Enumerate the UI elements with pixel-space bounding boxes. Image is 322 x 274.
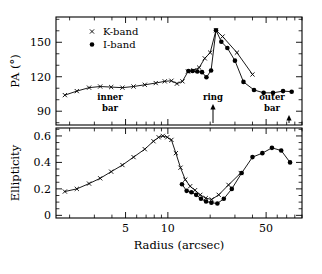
data-point-cross <box>131 155 135 159</box>
data-point-cross <box>217 193 221 197</box>
data-point-dot <box>204 199 209 204</box>
data-point-dot <box>194 193 199 198</box>
ellipticity-panel-frame <box>56 128 302 218</box>
pa-axis-title: PA (°) <box>8 54 22 87</box>
data-point-dot <box>233 58 238 63</box>
data-point-cross <box>203 56 207 60</box>
ellipticity-panel-ytick-label: 0 <box>44 209 51 222</box>
data-point-cross <box>183 178 187 182</box>
astronomy-profile-plot: 9012015000.20.40.651050Radius (arcsec)PA… <box>0 0 322 274</box>
pa-panel-series-k-band <box>63 28 255 97</box>
data-point-dot <box>215 201 220 206</box>
data-point-dot <box>279 148 284 153</box>
data-point-dot <box>180 182 185 187</box>
data-point-cross <box>157 135 161 139</box>
data-point-dot <box>209 68 214 73</box>
data-point-cross <box>63 93 67 97</box>
data-point-cross <box>120 163 124 167</box>
data-point-cross <box>87 181 91 185</box>
data-point-dot <box>90 42 95 47</box>
pa-panel-ytick-label: 90 <box>37 105 51 118</box>
data-point-dot <box>199 197 204 202</box>
annotation-ring: ring <box>203 92 223 102</box>
pa-panel-ytick-label: 150 <box>30 36 51 49</box>
annotation-outer-bar: bar <box>264 103 280 113</box>
pa-panel-series-i-band <box>186 28 294 95</box>
data-point-dot <box>225 46 230 51</box>
legend-label-k-band: K-band <box>103 26 139 37</box>
data-point-cross <box>197 65 201 69</box>
data-point-dot <box>270 146 275 151</box>
data-point-cross <box>226 183 230 187</box>
data-point-cross <box>175 82 179 86</box>
ellipticity-axis-title: Ellipticity <box>8 144 22 201</box>
annotation-arrowhead-outer-bar <box>286 115 291 121</box>
data-point-cross <box>151 139 155 143</box>
data-point-dot <box>239 171 244 176</box>
data-point-dot <box>190 69 195 74</box>
xtick-label: 50 <box>259 222 273 235</box>
data-point-cross <box>250 72 254 76</box>
legend-label-i-band: I-band <box>103 39 136 50</box>
annotations: innerbarringouterbar <box>97 92 291 123</box>
data-point-dot <box>260 151 265 156</box>
series-polyline <box>65 136 241 200</box>
series-polyline <box>65 30 253 95</box>
data-point-dot <box>214 28 219 33</box>
data-point-cross <box>220 34 224 38</box>
data-point-dot <box>189 190 194 195</box>
data-point-dot <box>222 197 227 202</box>
data-point-dot <box>186 69 191 74</box>
ellipticity-panel-series-i-band <box>180 146 293 206</box>
annotation-inner-bar: bar <box>102 103 118 113</box>
data-point-dot <box>252 88 257 93</box>
data-point-dot <box>209 200 214 205</box>
annotation-inner-bar: inner <box>97 92 123 102</box>
figure-container: 9012015000.20.40.651050Radius (arcsec)PA… <box>0 0 322 274</box>
data-point-cross <box>169 138 173 142</box>
series-polyline <box>188 30 291 93</box>
pa-panel-ytick-label: 120 <box>30 71 51 84</box>
data-point-cross <box>180 79 184 83</box>
data-point-dot <box>241 80 246 85</box>
data-point-cross <box>109 170 113 174</box>
data-point-dot <box>288 160 293 165</box>
data-point-cross <box>235 51 239 55</box>
ellipticity-panel-ytick-label: 0.2 <box>34 183 52 196</box>
x-axis-title: Radius (arcsec) <box>134 238 225 252</box>
data-point-dot <box>195 69 200 74</box>
data-point-cross <box>188 184 192 188</box>
data-point-dot <box>200 70 205 75</box>
data-point-cross <box>143 147 147 151</box>
ellipticity-panel-ytick-label: 0.6 <box>34 130 52 143</box>
xtick-label: 5 <box>122 222 129 235</box>
data-point-dot <box>230 187 235 192</box>
data-point-dot <box>289 89 294 94</box>
data-point-dot <box>204 75 209 80</box>
annotation-outer-bar: outer <box>259 92 285 102</box>
data-point-cross <box>90 29 94 33</box>
data-point-dot <box>184 189 189 194</box>
data-point-cross <box>98 176 102 180</box>
legend: K-bandI-band <box>90 26 139 50</box>
ellipticity-panel-ytick-label: 0.4 <box>34 156 52 169</box>
data-point-dot <box>219 39 224 44</box>
annotation-arrowhead-ring <box>210 104 215 110</box>
xtick-label: 10 <box>161 222 175 235</box>
ellipticity-panel-series-k-band <box>63 134 243 202</box>
data-point-cross <box>198 193 202 197</box>
data-point-dot <box>250 155 255 160</box>
